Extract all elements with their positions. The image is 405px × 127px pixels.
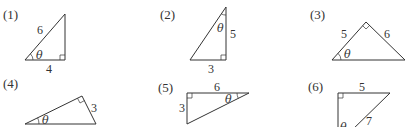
problem-label: (5) xyxy=(158,80,173,95)
side-length: 7 xyxy=(366,114,372,127)
side-length: 3 xyxy=(179,101,185,115)
problem-3: (3) 5 6 θ xyxy=(310,7,405,61)
right-triangle xyxy=(25,96,96,124)
side-length: 5 xyxy=(230,27,236,41)
side-length: 6 xyxy=(214,80,220,94)
angle-theta: θ xyxy=(340,121,347,127)
right-angle-mark xyxy=(363,26,370,30)
problem-2: (2) θ 5 3 xyxy=(160,7,236,76)
side-length: 3 xyxy=(208,62,214,76)
right-triangle xyxy=(25,14,65,60)
problem-label: (2) xyxy=(160,7,175,22)
right-angle-mark xyxy=(187,93,192,98)
angle-arc xyxy=(31,54,34,60)
right-angle-mark xyxy=(338,93,343,98)
angle-theta: θ xyxy=(42,114,49,127)
angle-theta: θ xyxy=(36,49,43,62)
side-length: 5 xyxy=(341,27,347,41)
problem-label: (6) xyxy=(308,79,323,94)
side-length: 5 xyxy=(359,80,365,94)
angle-theta: θ xyxy=(217,22,224,35)
problem-1: (1) 6 θ 4 xyxy=(3,7,65,76)
side-length: 4 xyxy=(46,62,52,76)
side-length: 6 xyxy=(384,27,390,41)
angle-arc xyxy=(237,93,238,98)
angle-arc xyxy=(222,14,227,15)
right-triangle xyxy=(187,93,249,124)
angle-arc xyxy=(338,53,341,60)
right-angle-mark xyxy=(221,55,226,60)
problem-6: (6) 5 7 θ xyxy=(308,79,390,127)
problem-4: (4) θ 3 xyxy=(3,76,97,127)
problem-label: (1) xyxy=(3,7,18,22)
side-length: 3 xyxy=(91,101,97,115)
angle-arc xyxy=(38,118,39,124)
problem-label: (3) xyxy=(310,7,325,22)
angle-theta: θ xyxy=(344,48,351,61)
problem-label: (4) xyxy=(3,76,18,91)
right-angle-mark xyxy=(60,55,65,60)
side-length: 6 xyxy=(37,23,43,37)
triangle-figures: (1) 6 θ 4 (2) θ 5 3 (3) 5 6 θ (4) θ 3 (5 xyxy=(0,0,405,127)
problem-5: (5) 6 3 θ xyxy=(158,80,249,124)
angle-theta: θ xyxy=(225,93,232,106)
